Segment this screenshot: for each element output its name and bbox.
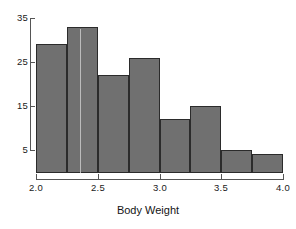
y-axis-tick: [30, 106, 35, 107]
x-axis-tick: [36, 174, 37, 179]
histogram-bar: [36, 44, 67, 173]
plot-area: [36, 14, 283, 173]
y-axis-tick: [30, 150, 35, 151]
x-axis-tick-label: 3.5: [204, 183, 238, 193]
x-axis-tick-label: 3.0: [143, 183, 177, 193]
y-axis-tick-label: 15: [2, 101, 28, 111]
x-axis-tick: [98, 174, 99, 179]
histogram-bar: [190, 106, 221, 173]
x-axis-title: Body Weight: [0, 204, 296, 216]
histogram-bar: [221, 150, 252, 173]
y-axis-tick: [30, 62, 35, 63]
y-axis-tick-label: 35: [2, 13, 28, 23]
x-axis-tick: [221, 174, 222, 179]
histogram-bar: [98, 75, 129, 173]
histogram-bar: [67, 27, 98, 173]
gridline-artifact: [80, 29, 81, 173]
histogram-bar: [129, 58, 160, 173]
y-axis-line: [30, 18, 31, 150]
x-axis-tick: [160, 174, 161, 179]
x-axis-tick-label: 4.0: [266, 183, 296, 193]
x-axis-tick-label: 2.5: [81, 183, 115, 193]
y-axis-tick-label: 5: [2, 145, 28, 155]
x-axis-tick: [283, 174, 284, 179]
histogram-figure: 3525155 2.02.53.03.54.0 Body Weight: [0, 0, 296, 229]
y-axis-tick: [30, 18, 35, 19]
histogram-bar: [160, 119, 191, 173]
x-axis-tick-label: 2.0: [19, 183, 53, 193]
x-axis-line: [36, 179, 284, 180]
y-axis-tick-label: 25: [2, 57, 28, 67]
histogram-bar: [252, 154, 283, 173]
